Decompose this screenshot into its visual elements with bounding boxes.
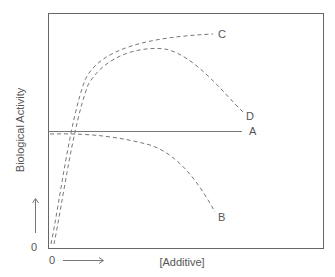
curve-b-label: B xyxy=(218,211,225,223)
curve-d-line xyxy=(54,48,243,244)
biological-activity-diagram: C D A B Biological Activity 0 0 [Additiv… xyxy=(0,0,335,277)
x-zero-label: 0 xyxy=(49,254,55,266)
y-zero-label: 0 xyxy=(31,241,37,253)
x-axis-label: [Additive] xyxy=(159,256,204,268)
curve-c-line xyxy=(51,34,213,244)
curve-b-line xyxy=(50,134,215,212)
curve-d-label: D xyxy=(246,110,254,122)
y-axis-label: Biological Activity xyxy=(14,87,26,172)
curve-a-label: A xyxy=(249,125,257,137)
curve-c-label: C xyxy=(218,28,226,40)
